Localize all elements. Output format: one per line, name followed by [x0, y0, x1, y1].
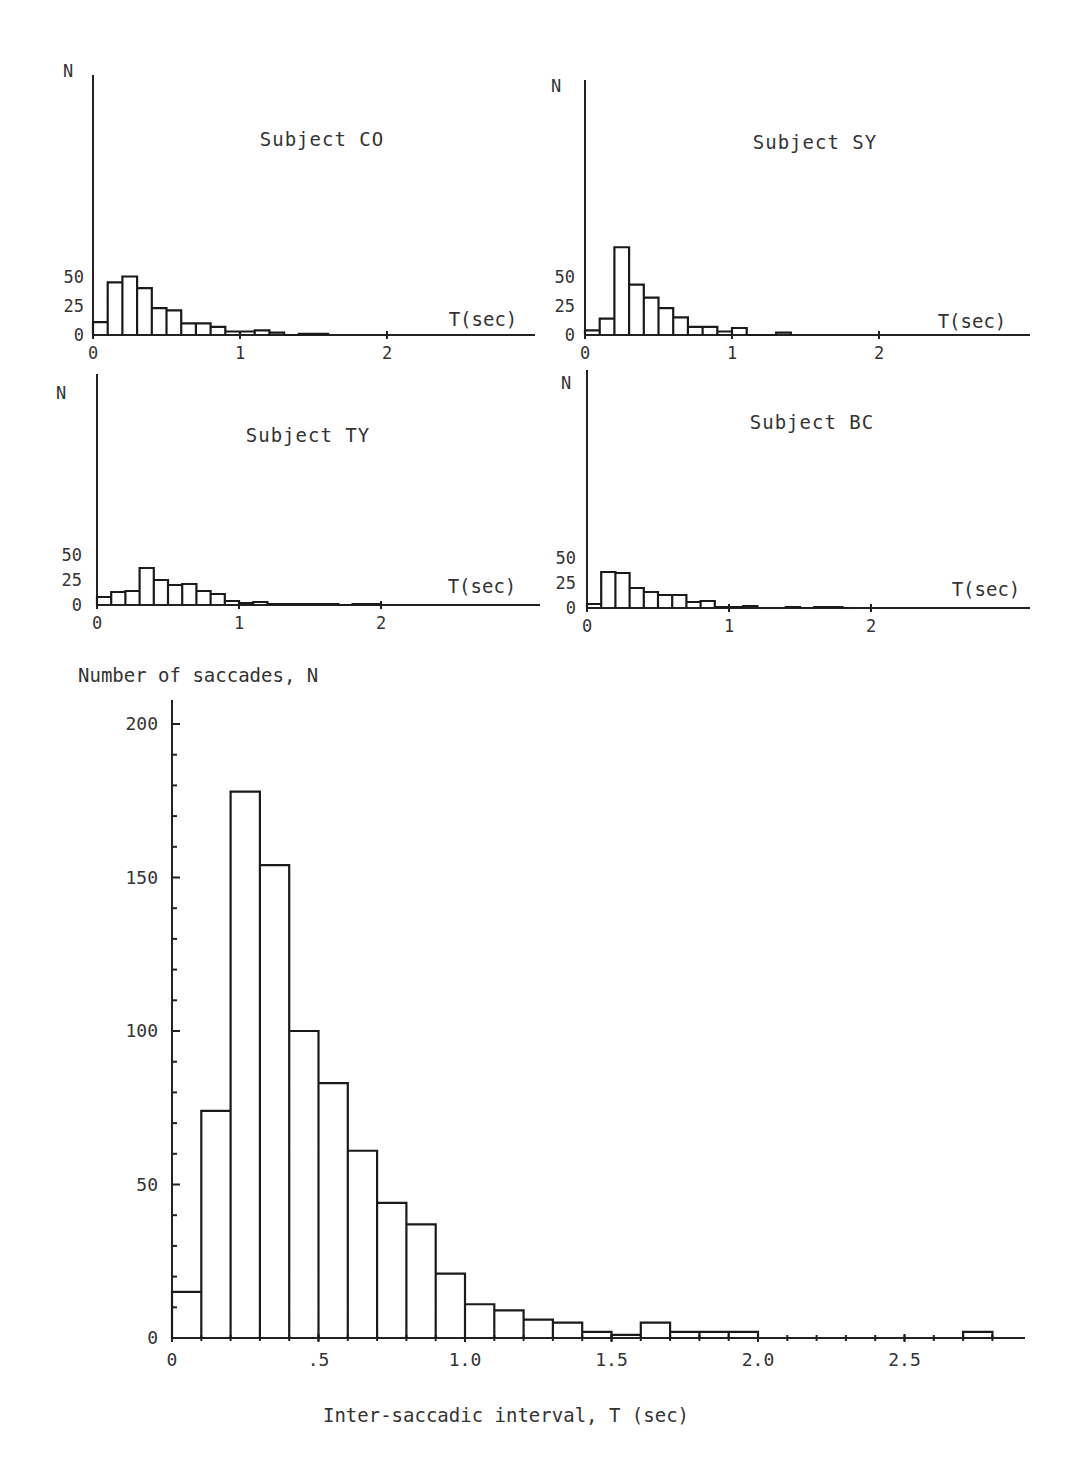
y-tick-label: 0 [147, 1327, 158, 1348]
chart-title: Subject BC [750, 411, 874, 433]
x-tick-label: 1 [234, 613, 244, 633]
x-tick-label: .5 [308, 1349, 330, 1370]
x-axis-label: T(sec) [448, 575, 517, 597]
x-tick-label: 1 [727, 343, 737, 363]
chart-subject-bc: 01202550Subject BCNT(sec) [556, 370, 1030, 636]
x-tick-label: 2 [376, 613, 386, 633]
y-tick-label: 50 [64, 267, 84, 287]
figure: 01202550Subject CONT(sec)01202550Subject… [0, 0, 1076, 1473]
y-tick-label: 0 [565, 325, 575, 345]
combined-x-axis-label: Inter-saccadic interval, T (sec) [323, 1404, 689, 1426]
y-tick-label: 50 [556, 548, 576, 568]
x-tick-label: 0 [167, 1349, 178, 1370]
y-tick-label: 0 [566, 598, 576, 618]
y-axis-label: N [56, 383, 66, 403]
chart-title: Subject CO [260, 128, 384, 150]
chart-title: Subject TY [246, 424, 370, 446]
y-tick-label: 50 [62, 545, 82, 565]
y-axis-label: N [561, 373, 571, 393]
x-tick-label: 2.0 [742, 1349, 775, 1370]
x-tick-label: 0 [92, 613, 102, 633]
x-tick-label: 0 [580, 343, 590, 363]
histogram-bars [587, 572, 857, 608]
y-tick-label: 0 [74, 325, 84, 345]
y-tick-label: 150 [125, 867, 158, 888]
x-tick-label: 0 [582, 616, 592, 636]
y-tick-label: 100 [125, 1020, 158, 1041]
x-axis-label: T(sec) [952, 578, 1021, 600]
chart-title: Subject SY [753, 131, 877, 153]
chart-subject-co: 01202550Subject CONT(sec) [63, 61, 535, 363]
histogram-bars [172, 792, 992, 1338]
chart-subject-sy: 01202550Subject SYNT(sec) [551, 76, 1030, 363]
x-tick-label: 2.5 [888, 1349, 921, 1370]
y-tick-label: 25 [62, 570, 82, 590]
histogram-bars [585, 247, 791, 335]
y-tick-label: 25 [556, 573, 576, 593]
x-tick-label: 1 [235, 343, 245, 363]
x-tick-label: 1.0 [449, 1349, 482, 1370]
y-axis-label: N [63, 61, 73, 81]
x-tick-label: 2 [874, 343, 884, 363]
x-tick-label: 2 [382, 343, 392, 363]
y-tick-label: 25 [555, 296, 575, 316]
chart-subject-ty: 01202550Subject TYNT(sec) [56, 374, 540, 633]
histogram-bars [97, 568, 381, 605]
x-tick-label: 0 [88, 343, 98, 363]
x-axis-label: T(sec) [938, 310, 1007, 332]
y-tick-label: 50 [555, 267, 575, 287]
histogram-figure: 01202550Subject CONT(sec)01202550Subject… [0, 0, 1076, 1473]
y-tick-label: 0 [72, 595, 82, 615]
chart-combined: 0.51.01.52.02.5050100150200 [125, 700, 1025, 1370]
combined-y-axis-label: Number of saccades, N [78, 664, 318, 686]
x-tick-label: 1.5 [595, 1349, 628, 1370]
y-tick-label: 25 [64, 296, 84, 316]
y-axis-label: N [551, 76, 561, 96]
y-tick-label: 200 [125, 713, 158, 734]
x-tick-label: 1 [724, 616, 734, 636]
x-axis-label: T(sec) [449, 308, 518, 330]
histogram-bars [93, 277, 328, 336]
y-tick-label: 50 [136, 1174, 158, 1195]
x-tick-label: 2 [866, 616, 876, 636]
